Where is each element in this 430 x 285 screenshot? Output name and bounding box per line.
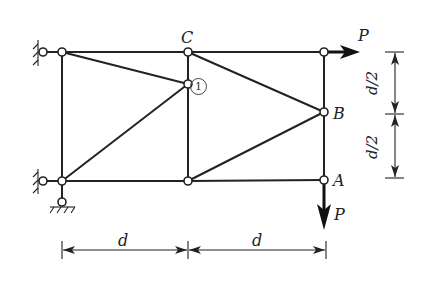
truss-nodes xyxy=(58,48,328,185)
node-bm xyxy=(184,177,192,185)
node-bl xyxy=(58,177,66,185)
node-tl xyxy=(58,48,66,56)
support-bottom-left-ground xyxy=(50,181,75,213)
diagonal-m-bl xyxy=(62,84,188,181)
node-tr xyxy=(320,48,328,56)
bottom-chord-right xyxy=(188,180,324,181)
label-member-1: 1 xyxy=(190,78,207,95)
label-node-c: C xyxy=(181,30,193,46)
label-node-b: B xyxy=(333,106,345,122)
truss-diagram: C B A 1 P P d d d/2 d/2 xyxy=(0,0,430,285)
label-force-vertical: P xyxy=(334,207,345,223)
label-dim-bottom-left: d xyxy=(118,233,128,249)
diagonal-tl-m xyxy=(62,52,188,84)
diagonal-b-bm xyxy=(188,112,324,181)
dimension-right xyxy=(385,52,404,178)
label-dim-right-lower: d/2 xyxy=(363,135,381,159)
node-c xyxy=(184,48,192,56)
diagonal-c-b xyxy=(188,52,324,112)
truss-members xyxy=(62,52,324,181)
node-b xyxy=(320,108,328,116)
label-dim-bottom-right: d xyxy=(252,233,262,249)
force-vertical-P xyxy=(317,180,331,230)
label-dim-right-upper: d/2 xyxy=(363,71,381,95)
node-a xyxy=(320,176,328,184)
force-horizontal-P xyxy=(324,45,360,59)
label-node-a: A xyxy=(333,173,345,189)
dimension-bottom xyxy=(62,241,326,259)
label-force-horizontal: P xyxy=(358,28,369,44)
